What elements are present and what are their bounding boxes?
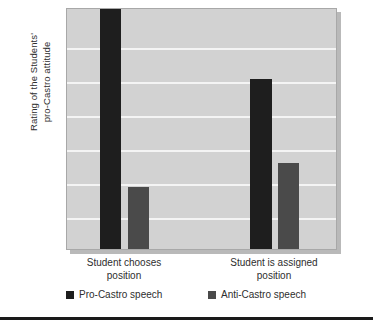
- bar-anti-castro-group-1: [278, 163, 299, 249]
- bottom-divider: [0, 317, 373, 320]
- bar-anti-castro-group-0: [128, 187, 149, 249]
- y-axis-title: Rating of the Students' pro-Castro attit…: [28, 0, 64, 172]
- legend-swatch-icon-anti-castro: [208, 291, 216, 299]
- bar-pro-castro-group-1: [250, 79, 272, 249]
- legend-item-anti-castro: Anti-Castro speech: [208, 288, 306, 302]
- category-label-0: Student chooses position: [49, 256, 199, 282]
- legend-label-anti-castro: Anti-Castro speech: [221, 288, 306, 302]
- legend-item-pro-castro: Pro-Castro speech: [66, 288, 162, 302]
- legend-label-pro-castro: Pro-Castro speech: [79, 288, 162, 302]
- chart-legend: Pro-Castro speech Anti-Castro speech: [60, 288, 360, 304]
- plot-area: [66, 8, 337, 250]
- legend-swatch-icon-pro-castro: [66, 291, 74, 299]
- bar-pro-castro-group-0: [100, 9, 121, 249]
- category-label-1: Student is assigned position: [199, 256, 349, 282]
- bar-chart-figure: Rating of the Students' pro-Castro attit…: [0, 0, 373, 328]
